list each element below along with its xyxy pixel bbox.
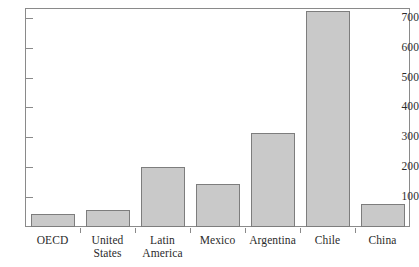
bar (306, 11, 350, 227)
x-axis-category-label: Argentina (245, 234, 300, 247)
bar (31, 214, 75, 227)
bar (141, 167, 185, 227)
bar (196, 184, 240, 227)
x-axis-tick (245, 228, 246, 233)
bar (251, 133, 295, 227)
clipped-caption-remnant (0, 0, 419, 6)
x-axis-category-label: Mexico (190, 234, 245, 247)
x-axis-tick (300, 228, 301, 233)
bar (361, 204, 405, 227)
x-axis-tick (355, 228, 356, 233)
x-axis-category-label: OECD (25, 234, 80, 247)
x-axis-tick (80, 228, 81, 233)
x-axis-tick (190, 228, 191, 233)
bar (86, 210, 130, 227)
bars-layer (25, 8, 410, 227)
x-axis-tick (135, 228, 136, 233)
x-axis-category-label: Chile (300, 234, 355, 247)
bar-chart-figure: 100200300400500600700 OECDUnited StatesL… (0, 0, 419, 267)
x-axis-category-label: Latin America (135, 234, 190, 260)
x-axis-category-label: United States (80, 234, 135, 260)
x-axis-category-label: China (355, 234, 410, 247)
